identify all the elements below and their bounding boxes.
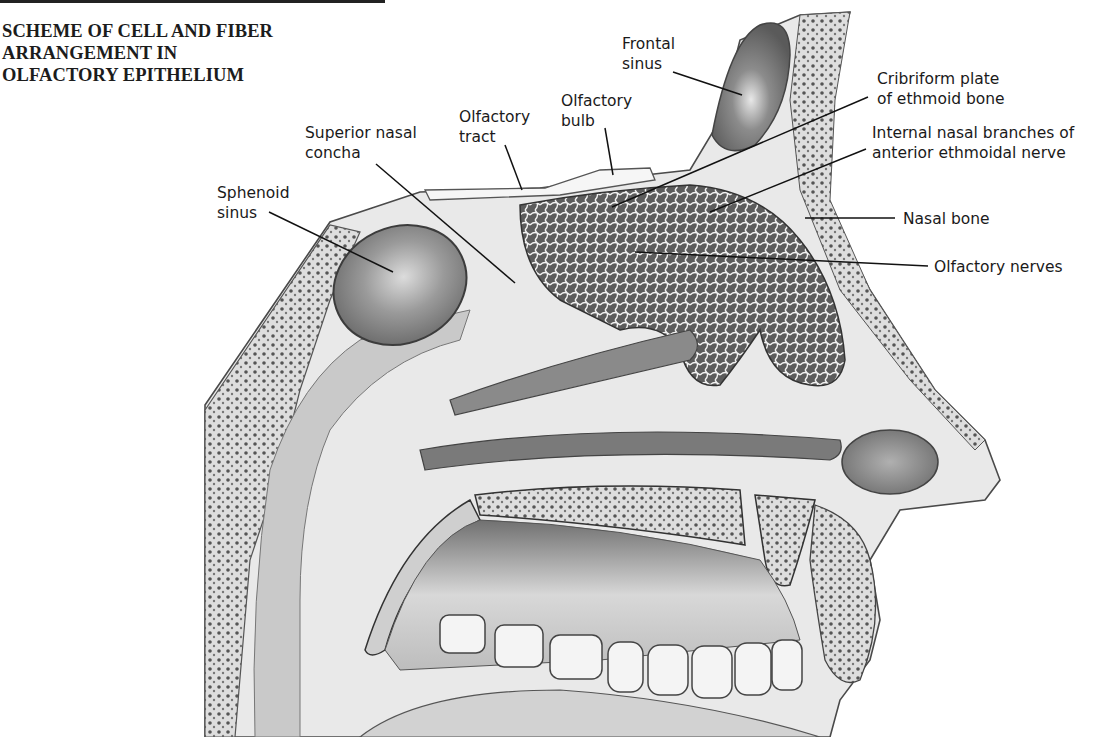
label-cribriform-plate: Cribriform plate of ethmoid bone (877, 69, 1005, 109)
label-nasal-bone: Nasal bone (903, 209, 990, 229)
label-olfactory-nerves: Olfactory nerves (934, 257, 1063, 277)
label-superior-nasal-concha: Superior nasal concha (305, 123, 417, 163)
label-sphenoid-sinus: Sphenoid sinus (217, 183, 290, 223)
nasal-vestibule-shape (842, 430, 938, 494)
label-frontal-sinus: Frontal sinus (622, 34, 675, 74)
nasal-cavity-illustration (0, 0, 1108, 737)
label-olfactory-tract: Olfactory tract (459, 107, 530, 147)
label-olfactory-bulb: Olfactory bulb (561, 91, 632, 131)
label-internal-nasal-branches: Internal nasal branches of anterior ethm… (872, 123, 1074, 163)
